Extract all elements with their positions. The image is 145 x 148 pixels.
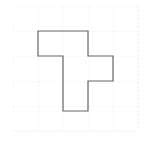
- grid-background: [13, 6, 138, 131]
- shape-diagram-svg: [0, 0, 145, 148]
- figure-canvas: [0, 0, 145, 148]
